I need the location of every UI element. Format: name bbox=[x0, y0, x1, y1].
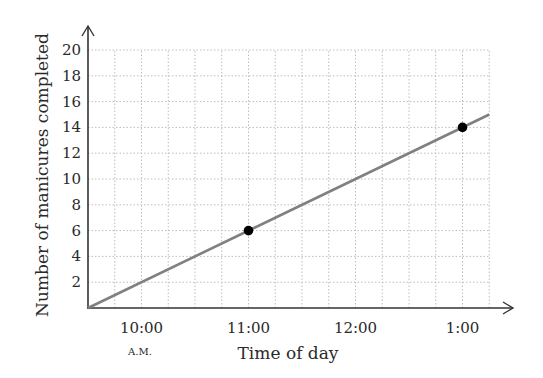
x-tick-labels: 10:0011:0012:001:00 bbox=[120, 319, 479, 337]
x-axis-label: Time of day bbox=[238, 343, 339, 363]
y-tick-label: 2 bbox=[71, 273, 81, 291]
am-label: A.M. bbox=[127, 346, 152, 357]
axes bbox=[82, 26, 513, 314]
x-tick-label: 11:00 bbox=[227, 319, 270, 337]
x-tick-label: 12:00 bbox=[334, 319, 377, 337]
y-tick-label: 4 bbox=[71, 247, 81, 265]
data-series bbox=[88, 115, 489, 309]
y-tick-labels: 2468101214161820 bbox=[62, 41, 81, 291]
y-tick-label: 18 bbox=[62, 67, 81, 85]
y-tick-label: 10 bbox=[62, 170, 81, 188]
y-axis-label: Number of manicures completed bbox=[32, 33, 52, 317]
y-tick-label: 14 bbox=[62, 118, 81, 136]
data-point bbox=[458, 123, 468, 133]
y-tick-label: 8 bbox=[71, 196, 81, 214]
x-tick-label: 10:00 bbox=[120, 319, 163, 337]
data-point bbox=[244, 226, 254, 236]
line-chart: 2468101214161820 10:0011:0012:001:00 A.M… bbox=[0, 0, 543, 378]
trend-line bbox=[88, 115, 489, 309]
x-tick-label: 1:00 bbox=[446, 319, 480, 337]
y-tick-label: 20 bbox=[62, 41, 81, 59]
grid bbox=[88, 50, 489, 308]
y-tick-label: 12 bbox=[62, 144, 81, 162]
y-tick-label: 16 bbox=[62, 93, 81, 111]
y-tick-label: 6 bbox=[71, 222, 81, 240]
